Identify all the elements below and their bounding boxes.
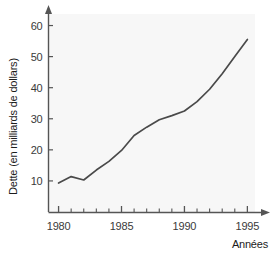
x-axis-title: Années (232, 238, 269, 250)
debt-line-chart: 102030405060 1980198519901995 Dette (en … (0, 0, 275, 256)
plot-area-background (49, 14, 255, 212)
chart-canvas: 102030405060 1980198519901995 Dette (en … (0, 0, 275, 256)
x-axis-arrow-icon (261, 209, 270, 216)
y-tick-label: 60 (31, 20, 43, 32)
y-axis-arrow-icon (45, 5, 52, 14)
y-tick-label: 40 (31, 82, 43, 94)
x-tick-label: 1990 (173, 220, 197, 232)
y-tick-label: 10 (31, 175, 43, 187)
y-tick-label: 20 (31, 144, 43, 156)
y-tick-label: 50 (31, 51, 43, 63)
x-axis-tick-labels: 1980198519901995 (47, 220, 260, 232)
x-tick-label: 1995 (236, 220, 260, 232)
y-axis-title: Dette (en milliards de dollars) (7, 58, 19, 195)
y-tick-label: 30 (31, 113, 43, 125)
x-tick-label: 1985 (110, 220, 134, 232)
x-tick-label: 1980 (47, 220, 71, 232)
y-axis-tick-labels: 102030405060 (31, 20, 43, 187)
